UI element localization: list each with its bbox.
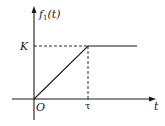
ramp-function-diagram: f1(t) K O τ t (0, 0, 165, 126)
y-axis-arrow-icon (32, 6, 37, 13)
origin-label: O (36, 101, 45, 114)
k-level-label: K (19, 40, 29, 53)
tau-tick-label: τ (85, 100, 91, 111)
function-label: f1(t) (38, 8, 61, 22)
t-axis-label: t (154, 100, 159, 113)
function-curve (34, 46, 137, 99)
